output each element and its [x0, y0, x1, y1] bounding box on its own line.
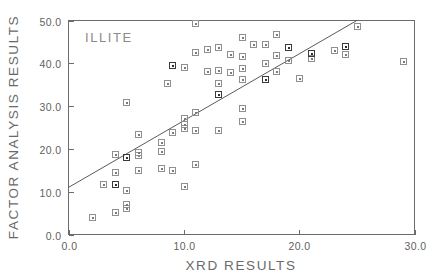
marker-center-dot [218, 70, 220, 72]
marker-center-dot [311, 58, 313, 60]
data-point-marker [124, 206, 130, 212]
data-point-marker [286, 45, 292, 51]
marker-center-dot [265, 44, 267, 46]
marker-center-dot [265, 63, 267, 65]
data-point-marker [240, 35, 246, 41]
data-point-marker [124, 100, 130, 106]
data-point-marker [101, 182, 107, 188]
marker-center-dot [242, 56, 244, 58]
data-point-marker [274, 53, 280, 59]
marker-center-dot [172, 132, 174, 134]
marker-center-dot [207, 49, 209, 51]
data-point-marker [216, 68, 222, 74]
data-point-marker [401, 59, 407, 65]
plot-frame [69, 21, 415, 235]
data-point-marker [240, 77, 246, 83]
data-point-marker [251, 42, 257, 48]
marker-center-dot [299, 78, 301, 80]
data-point-marker [240, 106, 246, 112]
data-point-marker [240, 66, 246, 72]
x-tick-label: 20.0 [288, 240, 310, 252]
y-axis-tick-labels: 0.010.020.030.040.050.0 [39, 16, 61, 242]
marker-center-dot [345, 54, 347, 56]
marker-center-dot [288, 47, 290, 49]
marker-center-dot [265, 79, 267, 81]
data-point-marker [170, 130, 176, 136]
marker-center-dot [195, 112, 197, 114]
marker-center-dot [276, 71, 278, 73]
y-axis-label: FACTOR ANALYSIS RESULTS [6, 15, 21, 239]
x-axis-label: XRD RESULTS [185, 258, 296, 273]
marker-center-dot [403, 61, 405, 63]
marker-center-dot [242, 108, 244, 110]
data-point-marker [159, 166, 165, 172]
y-tick-label: 10.0 [39, 187, 61, 199]
data-point-marker [332, 48, 338, 54]
marker-center-dot [195, 130, 197, 132]
y-tick-label: 50.0 [39, 16, 61, 28]
data-point-marker [113, 152, 119, 158]
data-point-marker [355, 24, 361, 30]
data-point-marker [113, 182, 119, 188]
marker-center-dot [103, 184, 105, 186]
data-point-marker [228, 70, 234, 76]
marker-center-dot [276, 34, 278, 36]
chart-svg: 0.010.020.030.0 0.010.020.030.040.050.0 … [0, 0, 437, 275]
data-point-marker [228, 52, 234, 58]
regression-trend-line [69, 21, 357, 188]
data-point-marker [193, 50, 199, 56]
marker-center-dot [230, 54, 232, 56]
y-tick-label: 30.0 [39, 101, 61, 113]
data-point-marker [113, 210, 119, 216]
marker-center-dot [138, 170, 140, 172]
x-tick-label: 10.0 [173, 240, 195, 252]
marker-center-dot [242, 37, 244, 39]
data-point-marker [124, 202, 130, 208]
marker-center-dot [242, 121, 244, 123]
x-axis-tick-labels: 0.010.020.030.0 [62, 240, 427, 252]
marker-center-dot [115, 154, 117, 156]
data-point-marker [240, 54, 246, 60]
data-point-marker [90, 215, 96, 221]
marker-center-dot [115, 184, 117, 186]
marker-center-dot [167, 83, 169, 85]
marker-center-dot [218, 130, 220, 132]
y-tick-label: 20.0 [39, 144, 61, 156]
marker-center-dot [126, 102, 128, 104]
data-point-marker [240, 119, 246, 125]
data-point-marker [136, 132, 142, 138]
data-point-marker [216, 92, 222, 98]
data-points-group [90, 21, 407, 221]
marker-center-dot [230, 72, 232, 74]
marker-center-dot [161, 142, 163, 144]
data-point-marker [343, 44, 349, 50]
marker-center-dot [218, 94, 220, 96]
marker-center-dot [184, 124, 186, 126]
data-point-marker [263, 77, 269, 83]
marker-center-dot [218, 83, 220, 85]
data-point-marker [159, 140, 165, 146]
x-tick-label: 30.0 [404, 240, 426, 252]
data-point-marker [205, 47, 211, 53]
marker-center-dot [161, 168, 163, 170]
marker-center-dot [126, 204, 128, 206]
marker-center-dot [242, 79, 244, 81]
marker-center-dot [115, 172, 117, 174]
marker-center-dot [195, 164, 197, 166]
marker-center-dot [345, 46, 347, 48]
marker-center-dot [126, 190, 128, 192]
data-point-marker [216, 128, 222, 134]
marker-center-dot [138, 134, 140, 136]
data-point-marker [193, 128, 199, 134]
data-point-marker [182, 122, 188, 128]
data-point-marker [182, 65, 188, 71]
data-point-marker [124, 188, 130, 194]
marker-center-dot [115, 212, 117, 214]
marker-center-dot [184, 186, 186, 188]
marker-center-dot [334, 50, 336, 52]
data-point-marker [136, 168, 142, 174]
data-point-marker [263, 42, 269, 48]
data-point-marker [159, 149, 165, 155]
data-point-marker [205, 69, 211, 75]
data-point-marker [165, 81, 171, 87]
